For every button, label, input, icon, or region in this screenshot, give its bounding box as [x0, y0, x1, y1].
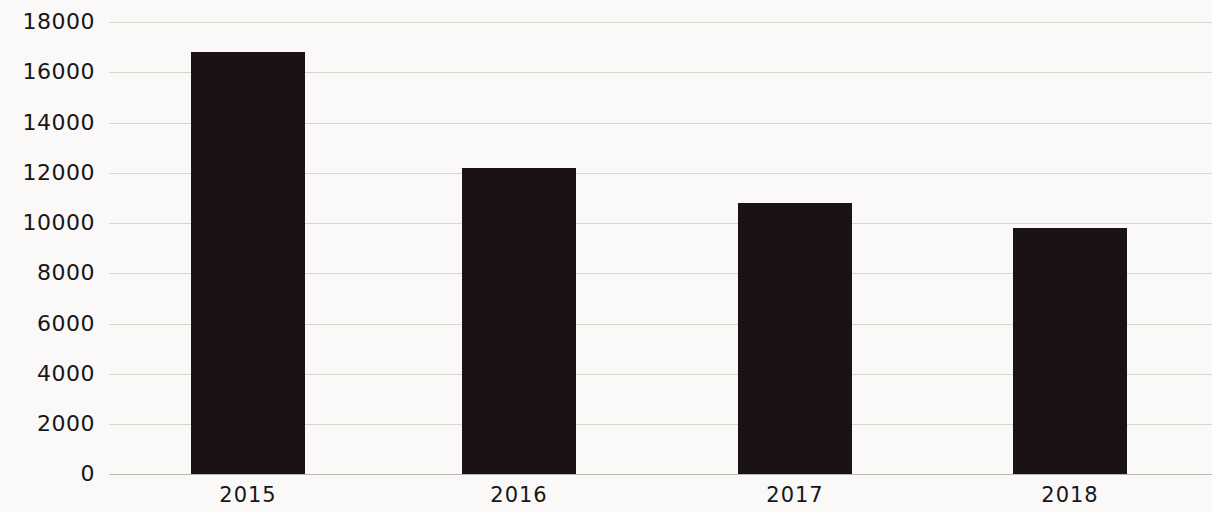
- x-axis-tick-label-2018: 2018: [970, 485, 1170, 506]
- y-axis-tick-label: 4000: [0, 363, 95, 385]
- y-axis-tick-label: 2000: [0, 413, 95, 435]
- y-axis-tick-label: 0: [0, 463, 95, 485]
- bar-chart: 18000 16000 14000 12000 10000 8000 6000 …: [0, 0, 1212, 512]
- x-axis-tick-label-2015: 2015: [148, 485, 348, 506]
- gridline-18000: [109, 22, 1212, 23]
- plot-area: [109, 0, 1212, 512]
- y-axis-tick-label: 14000: [0, 112, 95, 134]
- bar-2016[interactable]: [462, 168, 576, 474]
- x-axis-baseline: [109, 474, 1212, 475]
- y-axis-tick-label: 12000: [0, 162, 95, 184]
- y-axis-tick-label: 8000: [0, 262, 95, 284]
- bar-2017[interactable]: [738, 203, 852, 474]
- bar-2018[interactable]: [1013, 228, 1127, 474]
- y-axis-tick-label: 18000: [0, 11, 95, 33]
- y-axis-tick-label: 6000: [0, 313, 95, 335]
- x-axis-tick-label-2017: 2017: [695, 485, 895, 506]
- bar-2015[interactable]: [191, 52, 305, 474]
- y-axis-tick-label: 16000: [0, 61, 95, 83]
- y-axis-tick-label: 10000: [0, 212, 95, 234]
- x-axis-tick-label-2016: 2016: [419, 485, 619, 506]
